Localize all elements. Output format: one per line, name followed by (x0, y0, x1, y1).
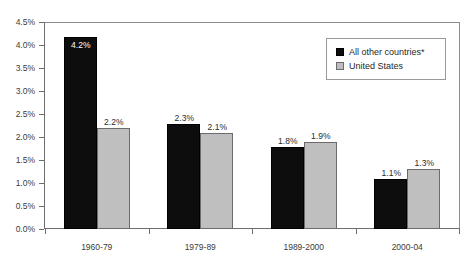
y-axis-tick-label: 0.5% (16, 200, 35, 212)
y-axis-tick: 4.5% (0, 16, 44, 28)
x-axis-tick-mark (252, 229, 253, 234)
bar[interactable] (407, 169, 440, 229)
bar-group: 4.2%2.2% (64, 23, 130, 229)
legend-item-label: All other countries* (349, 47, 425, 57)
y-axis-tick-label: 4.0% (16, 39, 35, 51)
legend: All other countries* United States (326, 38, 446, 80)
bar-chart: 4.5%4.0%3.5%3.0%2.5%2.0%1.5%1.0%0.5%0.0%… (0, 0, 476, 266)
legend-item: United States (327, 59, 445, 73)
x-axis-tick-mark (149, 229, 150, 234)
x-axis-tick-mark (356, 229, 357, 234)
legend-item-label: United States (349, 61, 403, 71)
y-axis-tick: 3.0% (0, 85, 44, 97)
x-axis-tick-mark (45, 229, 46, 234)
bar[interactable] (167, 124, 200, 229)
y-axis-tick-label: 3.5% (16, 62, 35, 74)
bar-value-label: 2.2% (91, 117, 137, 127)
bar-value-label: 1.3% (401, 158, 447, 168)
y-axis-tick: 2.5% (0, 108, 44, 120)
legend-swatch-icon (336, 62, 344, 70)
y-axis-tick-label: 4.5% (16, 16, 35, 28)
bar[interactable] (97, 128, 130, 229)
y-axis-tick-label: 3.0% (16, 85, 35, 97)
x-axis-category-label: 1989-2000 (249, 242, 359, 252)
y-axis-tick-label: 0.0% (16, 223, 35, 235)
y-axis-tick: 1.5% (0, 154, 44, 166)
bar[interactable] (271, 147, 304, 229)
bar-group: 2.3%2.1% (167, 23, 233, 229)
bar-value-label: 1.9% (298, 131, 344, 141)
x-axis: 1960-791979-891989-20002000-04 (44, 229, 460, 266)
y-axis-tick: 4.0% (0, 39, 44, 51)
x-axis-category-label: 2000-04 (352, 242, 462, 252)
bar[interactable] (64, 37, 97, 229)
y-axis-tick: 1.0% (0, 177, 44, 189)
bar[interactable] (200, 133, 233, 229)
legend-swatch-icon (336, 48, 344, 56)
x-axis-tick-mark (459, 229, 460, 234)
y-axis-tick: 0.5% (0, 200, 44, 212)
bar[interactable] (304, 142, 337, 229)
y-axis-tick-label: 2.0% (16, 131, 35, 143)
bar-value-label: 2.1% (194, 122, 240, 132)
legend-item: All other countries* (327, 45, 445, 59)
y-axis: 4.5%4.0%3.5%3.0%2.5%2.0%1.5%1.0%0.5%0.0% (0, 0, 44, 266)
y-axis-tick: 0.0% (0, 223, 44, 235)
x-axis-category-label: 1979-89 (145, 242, 255, 252)
y-axis-tick-label: 1.0% (16, 177, 35, 189)
bar-value-label: 4.2% (58, 40, 104, 50)
y-axis-tick: 2.0% (0, 131, 44, 143)
y-axis-tick-label: 1.5% (16, 154, 35, 166)
y-axis-tick: 3.5% (0, 62, 44, 74)
bar[interactable] (374, 179, 407, 229)
x-axis-category-label: 1960-79 (42, 242, 152, 252)
y-axis-tick-label: 2.5% (16, 108, 35, 120)
